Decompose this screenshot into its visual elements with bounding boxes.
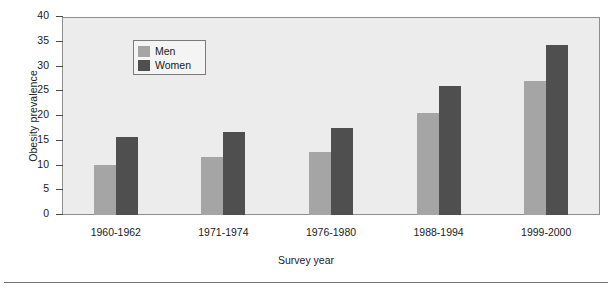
- bar-women-1960-1962: [116, 137, 138, 215]
- y-axis-tick-mark: [56, 16, 63, 17]
- bar-men-1976-1980: [309, 152, 331, 215]
- legend-label-women: Women: [155, 60, 191, 71]
- x-axis-title: Survey year: [0, 254, 612, 266]
- y-axis-tick-mark: [56, 66, 63, 67]
- bar-men-1988-1994: [417, 113, 439, 215]
- legend-item-men: Men: [138, 44, 201, 58]
- y-axis-tick-label: 25: [16, 83, 49, 95]
- y-axis-tick-label: 0: [16, 207, 49, 219]
- y-axis-tick-mark: [56, 115, 63, 116]
- chart-legend: Men Women: [133, 40, 206, 75]
- chart-figure: Obesity prevalence 0510152025303540 1960…: [0, 0, 612, 295]
- legend-swatch-men-icon: [138, 46, 150, 57]
- legend-item-women: Women: [138, 58, 201, 72]
- x-axis-tick-label: 1988-1994: [389, 226, 489, 238]
- y-axis-tick-label: 10: [16, 158, 49, 170]
- x-axis-tick-label: 1999-2000: [496, 226, 596, 238]
- y-axis-tick-mark: [56, 214, 63, 215]
- bar-men-1960-1962: [94, 165, 116, 215]
- bottom-divider: [4, 282, 608, 283]
- y-axis-tick-label: 20: [16, 108, 49, 120]
- x-axis-tick-label: 1976-1980: [281, 226, 381, 238]
- y-axis-tick-label: 15: [16, 133, 49, 145]
- legend-swatch-women-icon: [138, 60, 150, 71]
- y-axis-tick-mark: [56, 189, 63, 190]
- y-axis-tick-mark: [56, 41, 63, 42]
- bar-men-1999-2000: [524, 81, 546, 215]
- bar-women-1988-1994: [439, 86, 461, 215]
- bar-women-1971-1974: [223, 132, 245, 215]
- x-axis-tick-label: 1971-1974: [173, 226, 273, 238]
- y-axis-tick-label: 5: [16, 182, 49, 194]
- bar-men-1971-1974: [201, 157, 223, 215]
- y-axis-tick-label: 30: [16, 59, 49, 71]
- y-axis-tick-label: 40: [16, 9, 49, 21]
- bar-women-1976-1980: [331, 128, 353, 215]
- legend-label-men: Men: [155, 46, 175, 57]
- y-axis-tick-mark: [56, 140, 63, 141]
- y-axis-tick-mark: [56, 165, 63, 166]
- y-axis-tick-label: 35: [16, 34, 49, 46]
- x-axis-tick-label: 1960-1962: [66, 226, 166, 238]
- y-axis-tick-mark: [56, 90, 63, 91]
- bar-women-1999-2000: [546, 45, 568, 215]
